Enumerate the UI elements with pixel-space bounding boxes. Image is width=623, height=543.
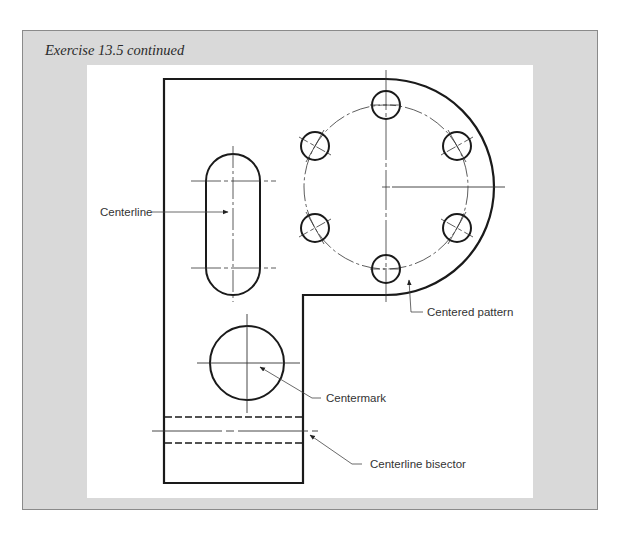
callout-centerline-bisector: Centerline bisector [370,458,466,470]
technical-drawing: Centerline Centered pattern Centermark C… [0,0,623,543]
large-hole [197,314,300,413]
callout-centered-pattern: Centered pattern [427,306,513,318]
callout-centermark: Centermark [326,392,386,404]
hidden-bore [152,417,318,443]
slot [191,146,276,302]
callout-centerline: Centerline [100,206,152,218]
leaders [152,212,423,464]
bolt-circle-pattern [299,70,505,302]
